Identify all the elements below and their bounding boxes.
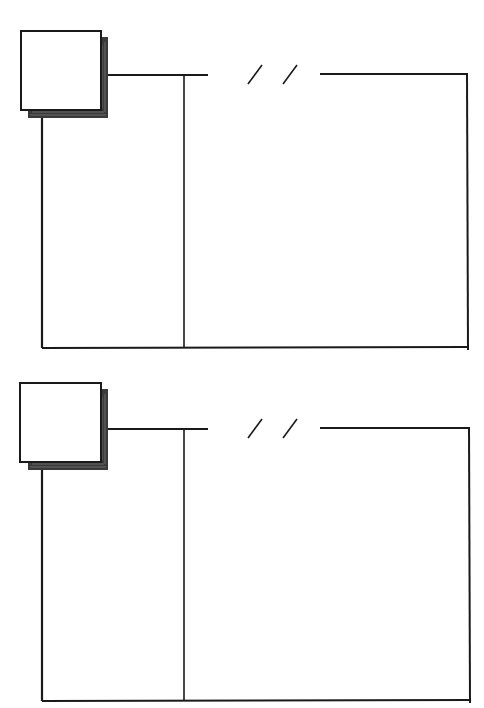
template-panel-top <box>0 0 484 354</box>
panel-frame-drawing <box>0 354 484 708</box>
panel-frame-drawing <box>0 0 484 354</box>
double-slash-icon <box>248 419 297 438</box>
template-panel-bottom <box>0 354 484 708</box>
square-note-icon <box>21 31 108 118</box>
square-note-icon <box>20 383 108 470</box>
double-slash-icon <box>248 65 297 84</box>
